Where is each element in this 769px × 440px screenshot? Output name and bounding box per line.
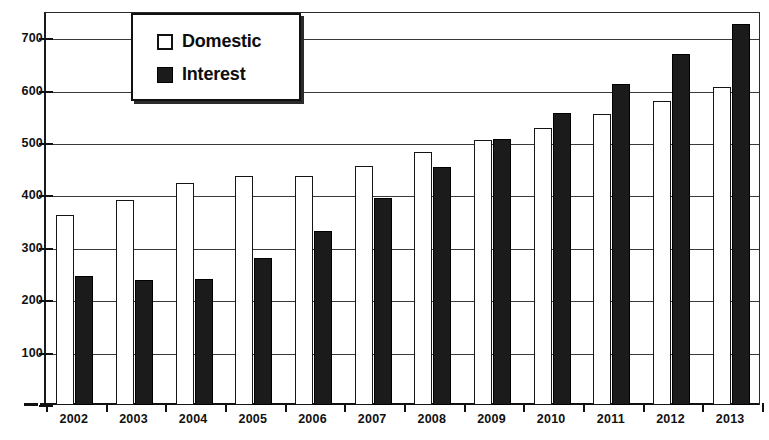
bar-interest — [672, 54, 690, 405]
bar-interest — [612, 84, 630, 405]
legend-label-domestic: Domestic — [182, 31, 261, 52]
x-tick-label: 2003 — [119, 412, 148, 426]
x-tick-label: 2010 — [537, 412, 566, 426]
bar-domestic — [295, 176, 313, 405]
bar-domestic — [235, 176, 253, 405]
bar-domestic — [653, 101, 671, 405]
bar-domestic — [593, 114, 611, 405]
legend-item-interest: Interest — [157, 58, 299, 91]
x-tick-label: 2008 — [418, 412, 447, 426]
bar-chart: 700600500400300200100 200220032004200520… — [0, 0, 769, 440]
x-tick-mark — [762, 403, 764, 412]
x-tick-label: 2011 — [597, 412, 625, 426]
bar-group — [344, 13, 404, 405]
bar-group — [583, 13, 643, 405]
bar-domestic — [176, 183, 194, 405]
x-tick-label: 2012 — [656, 412, 685, 426]
x-tick-label: 2004 — [179, 412, 208, 426]
x-tick-label: 2002 — [60, 412, 89, 426]
bar-group — [702, 13, 762, 405]
bar-domestic — [355, 166, 373, 405]
legend-label-interest: Interest — [182, 64, 245, 85]
bar-interest — [433, 167, 451, 405]
bar-interest — [254, 258, 272, 405]
bar-group — [46, 13, 106, 405]
bar-group — [523, 13, 583, 405]
bar-interest — [314, 231, 332, 405]
bar-interest — [75, 276, 93, 405]
y-tick-label: 300 — [3, 241, 43, 255]
hollow-square-icon — [157, 34, 173, 50]
y-tick-label: 200 — [3, 293, 43, 307]
x-tick-mark — [46, 403, 48, 412]
y-tick-label-zero — [24, 403, 38, 406]
bar-group — [464, 13, 524, 405]
bar-group — [643, 13, 703, 405]
filled-square-icon — [157, 67, 173, 83]
bar-interest — [195, 279, 213, 405]
x-tick-label: 2005 — [239, 412, 268, 426]
y-tick-label: 500 — [3, 136, 43, 150]
bar-domestic — [474, 140, 492, 405]
bar-domestic — [56, 215, 74, 405]
x-tick-label: 2007 — [358, 412, 387, 426]
y-tick-label: 400 — [3, 188, 43, 202]
y-tick-label: 600 — [3, 84, 43, 98]
chart-legend: Domestic Interest — [131, 13, 301, 101]
legend-item-domestic: Domestic — [157, 25, 299, 58]
bar-interest — [493, 139, 511, 405]
bar-interest — [732, 24, 750, 405]
x-tick-label: 2013 — [716, 412, 745, 426]
bar-interest — [374, 198, 392, 406]
bar-group — [404, 13, 464, 405]
y-tick-label: 700 — [3, 31, 43, 45]
bar-interest — [553, 113, 571, 405]
bar-domestic — [713, 87, 731, 405]
x-tick-label: 2009 — [477, 412, 506, 426]
y-tick-label: 100 — [3, 346, 43, 360]
bar-domestic — [414, 152, 432, 405]
bar-domestic — [116, 200, 134, 405]
x-tick-label: 2006 — [298, 412, 327, 426]
bar-domestic — [534, 128, 552, 405]
bar-interest — [135, 280, 153, 405]
